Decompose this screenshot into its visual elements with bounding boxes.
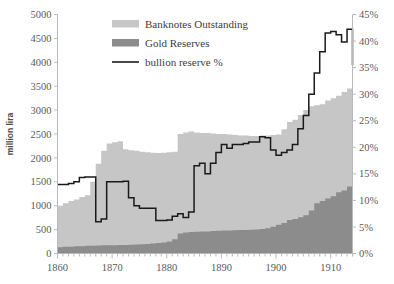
- x-axis-tick-label: 1900: [266, 262, 287, 273]
- chart-container: 0500100015002000250030003500400045005000…: [0, 0, 394, 284]
- y-axis-left-tick-label: 1000: [31, 200, 52, 211]
- y-axis-right-tick-label: 10%: [359, 195, 379, 206]
- y-axis-left-tick-label: 1500: [31, 176, 52, 187]
- y-axis-left-tick-label: 0: [46, 248, 51, 259]
- x-axis-tick-label: 1910: [320, 262, 341, 273]
- y-axis-right-tick-label: 45%: [359, 9, 379, 20]
- legend-label: Banknotes Outstanding: [145, 18, 248, 30]
- y-axis-left-tick-label: 3000: [31, 105, 52, 116]
- y-axis-right-tick-label: 20%: [359, 142, 379, 153]
- y-axis-left-tick-label: 2000: [31, 153, 52, 164]
- y-axis-right-tick-label: 5%: [359, 222, 373, 233]
- y-axis-right-tick-label: 35%: [359, 62, 379, 73]
- legend-label: Gold Reserves: [145, 37, 209, 49]
- y-axis-left-tick-label: 4000: [31, 57, 52, 68]
- x-axis-tick-label: 1890: [211, 262, 232, 273]
- x-axis-tick-label: 1880: [156, 262, 177, 273]
- legend-swatch: [112, 39, 139, 47]
- y-axis-left-tick-label: 4500: [31, 33, 52, 44]
- y-axis-title: million lira: [5, 112, 15, 155]
- legend-label: bullion reserve %: [145, 56, 223, 68]
- y-axis-right-tick-label: 40%: [359, 36, 379, 47]
- y-axis-right-tick-label: 30%: [359, 89, 379, 100]
- y-axis-left-tick-label: 3500: [31, 81, 52, 92]
- x-axis-tick-label: 1870: [102, 262, 123, 273]
- y-axis-left-tick-label: 500: [36, 224, 52, 235]
- area-chart: 0500100015002000250030003500400045005000…: [0, 0, 394, 284]
- x-axis-tick-label: 1860: [47, 262, 68, 273]
- y-axis-right-tick-label: 0%: [359, 248, 373, 259]
- y-axis-left-tick-label: 5000: [31, 9, 52, 20]
- legend-swatch: [112, 20, 139, 28]
- y-axis-right-tick-label: 15%: [359, 168, 379, 179]
- y-axis-right-tick-label: 25%: [359, 115, 379, 126]
- y-axis-left-tick-label: 2500: [31, 129, 52, 140]
